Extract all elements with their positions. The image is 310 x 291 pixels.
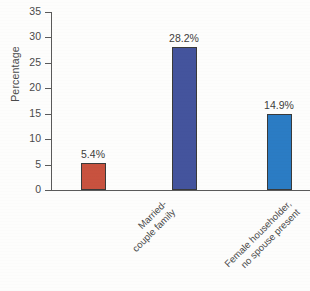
x-axis-label-female-householder: Female householder, no spouse present (222, 198, 302, 278)
x-axis-label-married-couple-family: Married- couple family (121, 198, 177, 254)
y-tick-15 (45, 114, 51, 115)
y-axis-line (51, 12, 52, 191)
bar-married-couple-family[interactable] (81, 163, 106, 190)
y-tick-35 (45, 12, 51, 13)
y-tick-label-35: 35 (18, 5, 41, 17)
y-tick-5 (45, 165, 51, 166)
y-tick-10 (45, 139, 51, 140)
bar-male-householder[interactable] (267, 114, 292, 190)
y-tick-20 (45, 88, 51, 89)
y-tick-label-20: 20 (18, 81, 41, 93)
y-tick-30 (45, 37, 51, 38)
x-axis-line (51, 190, 310, 191)
x-axis-label-line-1: Female householder, (222, 198, 293, 269)
y-tick-0 (45, 190, 51, 191)
y-axis-title: Percentage (9, 29, 21, 119)
y-tick-label-30: 30 (18, 30, 41, 42)
y-tick-25 (45, 63, 51, 64)
bar-chart: Percentage 35 30 25 20 15 10 5 0 5.4% 28… (0, 0, 310, 291)
bar-value-female-householder: 28.2% (160, 32, 208, 44)
bar-value-married-couple-family: 5.4% (69, 148, 117, 160)
bar-value-male-householder: 14.9% (255, 99, 303, 111)
y-tick-label-25: 25 (18, 56, 41, 68)
y-tick-label-15: 15 (18, 107, 41, 119)
y-tick-label-10: 10 (18, 132, 41, 144)
bar-female-householder[interactable] (172, 47, 197, 190)
y-tick-label-5: 5 (18, 158, 41, 170)
y-tick-label-0: 0 (18, 183, 41, 195)
